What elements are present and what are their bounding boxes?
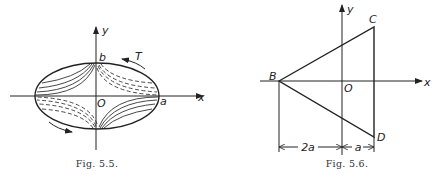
label-a: a	[160, 95, 167, 108]
label-b: b	[99, 51, 106, 64]
triangle-bcd	[279, 27, 374, 137]
vertex-c-label: C	[369, 13, 377, 26]
figure-5-5: y x b T O a Fig. 5.5.	[10, 24, 205, 169]
caption-fig-5-5: Fig. 5.5.	[76, 158, 119, 169]
y-axis-label: y	[346, 3, 354, 16]
origin-label: O	[344, 82, 353, 95]
solid-contours-upper-left	[36, 64, 95, 95]
dashed-contours-lower-left	[36, 97, 97, 128]
x-axis-label: x	[197, 91, 205, 104]
vertex-d-label: D	[377, 131, 385, 144]
figure-canvas: y x b T O a Fig. 5.5. 2a a y x O B C D F…	[0, 0, 437, 178]
torque-arrow-lower	[49, 122, 72, 132]
caption-fig-5-6: Fig. 5.6.	[326, 158, 369, 169]
y-axis-label: y	[101, 24, 109, 37]
dim-label-2a: 2a	[301, 141, 315, 154]
label-t: T	[135, 50, 143, 63]
vertex-b-label: B	[269, 70, 277, 83]
solid-contours-lower-right	[99, 97, 158, 128]
dim-label-a: a	[355, 141, 362, 154]
x-axis-label: x	[423, 76, 431, 89]
origin-label: O	[97, 97, 106, 110]
dashed-contours-upper-right	[97, 64, 158, 95]
figure-5-6: 2a a y x O B C D Fig. 5.6.	[260, 3, 431, 169]
